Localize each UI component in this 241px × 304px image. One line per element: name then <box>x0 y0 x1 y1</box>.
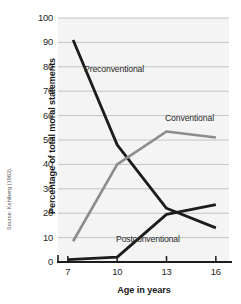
y-tick-label-60: 60 <box>27 110 53 121</box>
y-tick-label-30: 30 <box>27 183 53 194</box>
chart-figure: Source: Kohlberg (1963). Percentage of t… <box>0 0 241 304</box>
y-tick-label-10: 10 <box>27 232 53 243</box>
y-tick-label-80: 80 <box>27 61 53 72</box>
x-tick-label-10: 10 <box>107 266 127 277</box>
x-axis-title: Age in years <box>58 285 230 295</box>
y-tick-label-40: 40 <box>27 158 53 169</box>
series-label-preconventional: Preconventional <box>84 64 144 74</box>
y-tick-label-50: 50 <box>27 134 53 145</box>
y-tick-label-70: 70 <box>27 85 53 96</box>
y-tick-label-20: 20 <box>27 207 53 218</box>
y-tick-label-0: 0 <box>27 256 53 267</box>
y-tick-label-100: 100 <box>27 12 53 23</box>
series-label-postconventional: Postconventional <box>116 234 180 244</box>
x-tick-label-16: 16 <box>206 266 226 277</box>
y-tick-label-90: 90 <box>27 36 53 47</box>
x-tick-label-13: 13 <box>157 266 177 277</box>
series-label-conventional: Conventional <box>165 113 214 123</box>
series-line-conventional <box>73 131 216 241</box>
gridlines <box>58 18 229 238</box>
x-tick-label-7: 7 <box>58 266 78 277</box>
